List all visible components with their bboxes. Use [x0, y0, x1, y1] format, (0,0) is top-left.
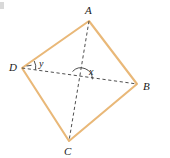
vertex-label-a: A — [85, 5, 92, 16]
figure-page: A B C D x y Banco de imagens/Arquivo da … — [0, 0, 170, 158]
angle-arc-y — [34, 61, 36, 70]
vertex-label-b: B — [143, 81, 150, 92]
diagonal-ac — [69, 21, 89, 141]
vertex-label-d: D — [9, 62, 17, 73]
quadrilateral-diagram — [0, 0, 170, 158]
diagonal-db — [22, 68, 137, 84]
angle-label-y: y — [39, 59, 43, 69]
vertex-label-c: C — [64, 146, 71, 157]
quadrilateral-abcd — [22, 21, 137, 141]
angle-label-x: x — [89, 67, 93, 77]
